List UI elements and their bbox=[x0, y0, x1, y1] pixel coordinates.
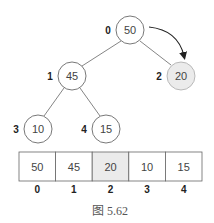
tree-node-1: 451 bbox=[47, 62, 86, 90]
array-cell-0: 500 bbox=[19, 152, 56, 195]
cell-value: 15 bbox=[178, 161, 190, 173]
edge-0-1 bbox=[82, 41, 121, 66]
heap-diagram: 500451202103154 500451202103154 图 5.62 bbox=[0, 0, 214, 223]
cell-value: 20 bbox=[104, 161, 116, 173]
edge-0-2 bbox=[140, 41, 171, 65]
tree-node-3: 103 bbox=[13, 115, 52, 143]
node-index: 2 bbox=[156, 71, 162, 82]
figure-caption: 图 5.62 bbox=[92, 204, 128, 218]
cell-value: 45 bbox=[68, 161, 80, 173]
node-index: 0 bbox=[105, 25, 111, 36]
edge-1-3 bbox=[44, 88, 64, 116]
array-cell-1: 451 bbox=[56, 152, 93, 195]
tree-node-4: 154 bbox=[81, 115, 120, 143]
node-index: 1 bbox=[47, 71, 53, 82]
node-index: 4 bbox=[81, 124, 87, 135]
cell-index: 1 bbox=[71, 184, 77, 195]
cell-value: 10 bbox=[141, 161, 153, 173]
node-value: 45 bbox=[66, 70, 78, 82]
cell-index: 0 bbox=[35, 184, 41, 195]
cell-value: 50 bbox=[31, 161, 43, 173]
node-value: 20 bbox=[175, 70, 187, 82]
node-index: 3 bbox=[13, 124, 19, 135]
node-value: 10 bbox=[32, 123, 44, 135]
tree-node-2: 202 bbox=[156, 62, 195, 90]
node-value: 50 bbox=[124, 24, 136, 36]
array-cell-4: 154 bbox=[165, 152, 202, 195]
cell-index: 3 bbox=[144, 184, 150, 195]
array-cell-3: 103 bbox=[129, 152, 166, 195]
edge-1-4 bbox=[80, 88, 100, 116]
cell-index: 2 bbox=[108, 184, 114, 195]
node-value: 15 bbox=[100, 123, 112, 135]
array-cell-2: 202 bbox=[92, 152, 129, 195]
cell-index: 4 bbox=[181, 184, 187, 195]
tree-node-0: 500 bbox=[105, 16, 144, 44]
